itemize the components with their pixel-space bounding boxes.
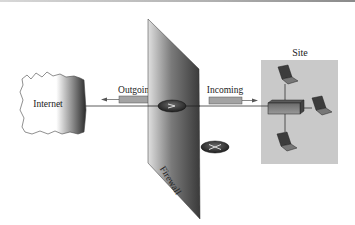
arrow-left-icon <box>101 98 107 102</box>
incoming-packet <box>209 97 242 104</box>
site-label: Site <box>292 47 308 58</box>
arrow-right-icon <box>252 99 258 103</box>
internet-label: Internet <box>33 99 63 109</box>
incoming-flow: Incoming <box>207 85 258 104</box>
router-icon <box>158 100 186 112</box>
incoming-label: Incoming <box>207 85 244 95</box>
hub-top <box>268 100 304 103</box>
router-pass <box>158 100 186 112</box>
firewall: Firewall <box>148 19 200 219</box>
outgoing-flow: Outgoing <box>101 85 154 103</box>
router-block <box>201 141 229 153</box>
hub-icon <box>268 103 300 114</box>
internet-cloud: Internet <box>20 72 86 134</box>
hub-switch <box>268 100 304 114</box>
firewall-diagram: Site Internet Outgoing Firewall Incoming <box>0 0 355 225</box>
